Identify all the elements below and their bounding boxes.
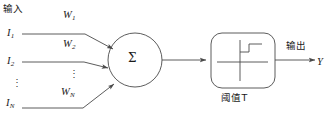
threshold-block xyxy=(211,33,275,88)
summation-symbol: Σ xyxy=(128,52,136,64)
input-label-2-base: I xyxy=(7,55,11,66)
input-label-2: I2 xyxy=(7,56,14,67)
input-header-label: 输入 xyxy=(3,4,23,14)
output-header-label: 输出 xyxy=(286,41,306,51)
input-label-2-subscript: 2 xyxy=(11,60,15,68)
input-label-n-base: I xyxy=(6,97,10,108)
weight-ellipsis-icon: ⋮ xyxy=(69,69,79,79)
weight-label-2-base: W xyxy=(63,38,72,49)
input-ellipsis-icon: ⋮ xyxy=(12,78,22,88)
weight-label-n-subscript: N xyxy=(70,91,75,99)
input-label-n: IN xyxy=(6,98,14,109)
input-label-n-subscript: N xyxy=(10,102,15,110)
input-line-2 xyxy=(22,62,108,68)
weight-label-n: WN xyxy=(61,87,74,98)
step-function-icon xyxy=(217,40,268,81)
diagram-vector-layer xyxy=(0,0,330,121)
weight-label-n-base: W xyxy=(61,86,70,97)
weight-label-2-subscript: 2 xyxy=(72,43,76,51)
output-symbol-label: Y xyxy=(317,57,323,68)
weight-label-1-base: W xyxy=(63,9,72,20)
input-label-1-subscript: 1 xyxy=(11,32,15,40)
weight-label-1-subscript: 1 xyxy=(72,14,76,22)
input-label-1: I1 xyxy=(7,28,14,39)
weight-label-2: W2 xyxy=(63,39,75,50)
neuron-diagram-canvas: 输入 I1 I2 ⋮ IN W1 W2 ⋮ WN Σ 阈值T 输出 Y xyxy=(0,0,330,121)
input-label-1-base: I xyxy=(7,27,11,38)
weight-label-1: W1 xyxy=(63,10,75,21)
threshold-label: 阈值T xyxy=(221,93,247,103)
